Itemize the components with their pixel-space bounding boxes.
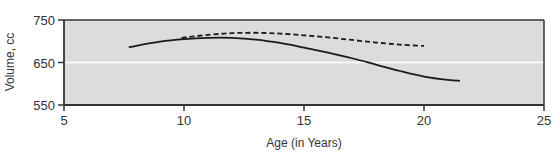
chart: 510152025 550650750 Age (in Years) Volum… xyxy=(0,0,560,157)
x-axis-title: Age (in Years) xyxy=(266,136,341,150)
x-axis-ticks: 510152025 xyxy=(60,105,551,128)
x-tick-label: 10 xyxy=(177,113,191,128)
x-tick-label: 20 xyxy=(417,113,431,128)
x-tick-label: 15 xyxy=(297,113,311,128)
x-tick-label: 5 xyxy=(60,113,67,128)
y-tick-label: 750 xyxy=(33,13,55,28)
y-axis-ticks: 550650750 xyxy=(33,13,64,113)
y-tick-label: 550 xyxy=(33,98,55,113)
x-tick-label: 25 xyxy=(537,113,551,128)
y-tick-label: 650 xyxy=(33,56,55,71)
y-axis-title: Volume, cc xyxy=(3,33,17,92)
